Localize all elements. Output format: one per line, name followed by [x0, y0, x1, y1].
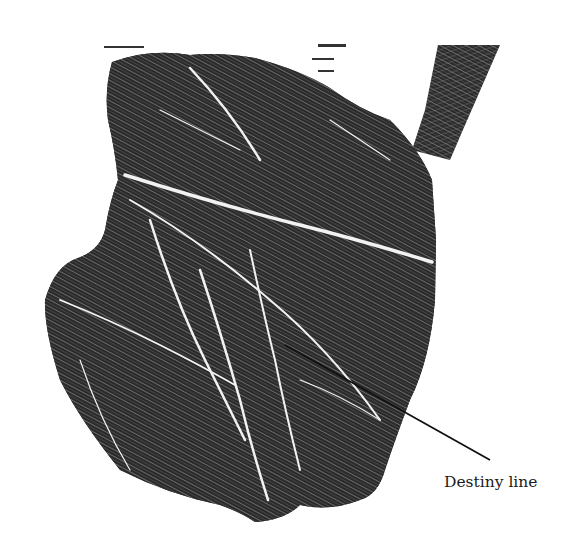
finger-print-strip [412, 45, 500, 160]
destiny-line-label: Destiny line [444, 473, 537, 491]
palm-print-diagram [0, 0, 582, 546]
palm-silhouette [45, 53, 436, 522]
